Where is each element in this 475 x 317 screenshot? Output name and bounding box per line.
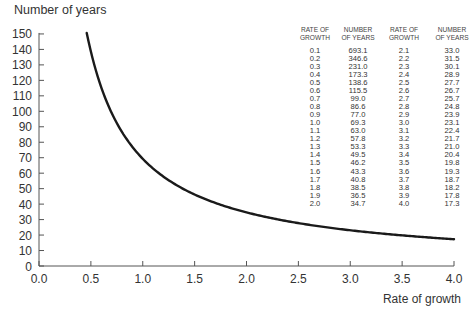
y-tick-label: 10 [19, 244, 33, 258]
table-header-cell: NUMBER OF YEARS [340, 26, 376, 42]
y-tick-label: 40 [19, 198, 33, 212]
x-axis-ticks: 0.00.51.01.52.02.53.03.54.0 [31, 261, 463, 286]
y-tick-label: 140 [12, 43, 32, 57]
y-tick-label: 80 [19, 136, 33, 150]
y-tick-label: 130 [12, 58, 32, 72]
y-tick-label: 30 [19, 213, 33, 227]
table-row: 2.034.74.017.3 [290, 200, 475, 208]
table-cell: 4.0 [376, 200, 432, 208]
y-tick-label: 20 [19, 229, 33, 243]
x-tick-label: 1.5 [186, 272, 203, 286]
y-tick-label: 150 [12, 27, 32, 41]
x-tick-label: 3.5 [394, 272, 411, 286]
x-tick-label: 0.5 [83, 272, 100, 286]
y-tick-label: 90 [19, 120, 33, 134]
y-tick-label: 70 [19, 151, 33, 165]
table-body: 0.1693.12.133.00.2346.62.231.50.3231.02.… [290, 47, 475, 208]
table-header-cell: RATE OF GROWTH [290, 26, 340, 42]
x-tick-label: 0.0 [31, 272, 48, 286]
x-tick-label: 3.0 [342, 272, 359, 286]
table-header-cell: NUMBER OF YEARS [432, 26, 472, 42]
y-tick-label: 60 [19, 167, 33, 181]
table-header-cell: RATE OF GROWTH [376, 26, 432, 42]
y-tick-label: 110 [13, 89, 32, 103]
y-tick-label: 50 [19, 182, 33, 196]
y-tick-label: 100 [12, 105, 32, 119]
data-table: RATE OF GROWTHNUMBER OF YEARSRATE OF GRO… [290, 26, 475, 208]
x-tick-label: 4.0 [446, 272, 463, 286]
y-tick-label: 120 [12, 74, 32, 88]
x-tick-label: 2.5 [290, 272, 307, 286]
table-cell: 2.0 [290, 200, 340, 208]
table-header: RATE OF GROWTHNUMBER OF YEARSRATE OF GRO… [290, 26, 475, 42]
x-tick-label: 1.0 [134, 272, 151, 286]
table-cell: 34.7 [340, 200, 376, 208]
table-cell: 17.3 [432, 200, 472, 208]
x-tick-label: 2.0 [238, 272, 255, 286]
